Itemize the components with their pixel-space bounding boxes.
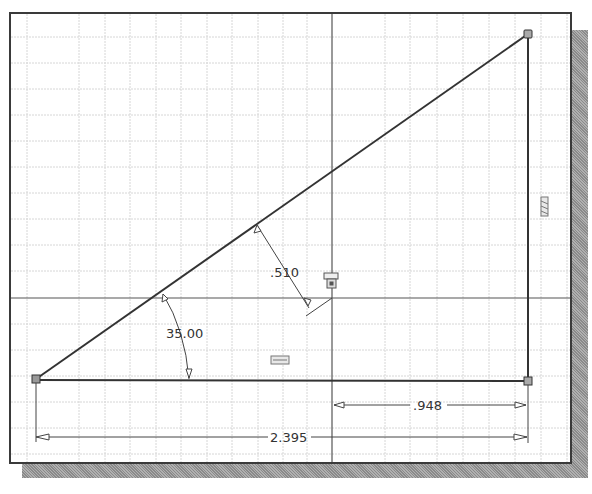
dimension-labels: .510 35.00 .948 2.395 <box>0 0 592 494</box>
offset-dimension-value[interactable]: .510 <box>270 265 299 280</box>
short-horizontal-dimension-value[interactable]: .948 <box>413 398 442 413</box>
overall-horizontal-dimension-value[interactable]: 2.395 <box>270 430 307 445</box>
angle-dimension-value[interactable]: 35.00 <box>166 326 203 341</box>
